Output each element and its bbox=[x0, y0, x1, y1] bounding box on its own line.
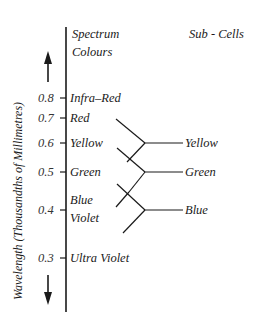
spectrum-label: Yellow bbox=[70, 136, 104, 150]
tick-value: 0.4 bbox=[38, 203, 54, 217]
spectrum-label: Infra–Red bbox=[69, 91, 121, 105]
tick-value: 0.7 bbox=[38, 111, 54, 125]
axis-title: Wavelength (Thousandths of Millimetres) bbox=[11, 102, 25, 300]
tick-0.6: 0.6 Yellow bbox=[38, 136, 104, 150]
tick-0.3: 0.3 Ultra Violet bbox=[38, 251, 130, 265]
header-subcells: Sub - Cells bbox=[189, 27, 244, 41]
spectrum-label: Ultra Violet bbox=[70, 251, 130, 265]
tick-value: 0.6 bbox=[38, 136, 54, 150]
arrow-up-icon bbox=[44, 51, 52, 82]
tick-0.7: 0.7 Red bbox=[38, 111, 90, 125]
spectrum-label-blue: Blue bbox=[70, 193, 93, 207]
subcell-label-green: Green bbox=[185, 165, 216, 179]
crossing-stroke bbox=[116, 192, 129, 207]
header-spectrum: Spectrum bbox=[72, 27, 119, 41]
subcell-label-blue: Blue bbox=[185, 203, 208, 217]
subcell-blue bbox=[117, 184, 183, 233]
header-colours: Colours bbox=[72, 45, 112, 59]
subcell-green bbox=[117, 148, 183, 192]
spectrum-label-violet: Violet bbox=[70, 211, 99, 225]
tick-value: 0.5 bbox=[38, 165, 54, 179]
subcell-label-yellow: Yellow bbox=[185, 136, 219, 150]
tick-0.5: 0.5 Green bbox=[38, 165, 101, 179]
spectrum-label: Green bbox=[70, 165, 101, 179]
tick-value: 0.3 bbox=[38, 251, 54, 265]
tick-0.8: 0.8 Infra–Red bbox=[38, 91, 121, 105]
wavelength-subcell-diagram: Wavelength (Thousandths of Millimetres) … bbox=[0, 0, 264, 332]
arrow-down-icon bbox=[44, 275, 52, 305]
tick-value: 0.8 bbox=[38, 91, 54, 105]
tick-0.4: 0.4 Blue Violet bbox=[38, 193, 99, 225]
spectrum-label: Red bbox=[69, 111, 90, 125]
